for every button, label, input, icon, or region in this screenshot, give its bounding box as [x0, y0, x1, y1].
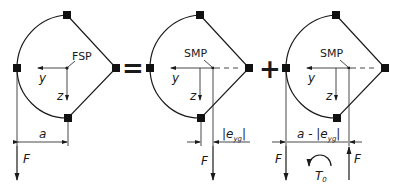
shear-center-diagram: y z FSP a F = y z SMP: [0, 0, 403, 185]
smp-leader: [204, 60, 212, 67]
node-top: [63, 11, 71, 19]
node-bottom: [333, 114, 341, 122]
node-right: [381, 64, 389, 72]
dimension-label: a - |eyg|: [297, 127, 340, 143]
dimension-a-label: a: [39, 127, 46, 141]
z-axis-label: z: [189, 89, 197, 103]
equals-operator: =: [122, 53, 144, 83]
node-right: [112, 64, 120, 72]
smp-label: SMP: [320, 47, 343, 60]
force-label: F: [23, 152, 31, 166]
node-top: [332, 11, 340, 19]
node-bottom: [197, 114, 205, 122]
fsp-label: FSP: [72, 50, 92, 63]
torque-arc-arrow: [309, 155, 331, 166]
force-label: F: [201, 154, 209, 168]
torque-label: T0: [315, 169, 327, 184]
node-right: [245, 64, 253, 72]
smp-label: SMP: [184, 47, 207, 60]
node-top: [196, 11, 204, 19]
plus-operator: +: [259, 54, 281, 84]
node-left: [146, 64, 154, 72]
smp-leader: [340, 60, 348, 67]
node-left: [13, 64, 21, 72]
z-axis-label: z: [56, 89, 64, 103]
panel-shifted-force: y z SMP |eyg| F: [146, 11, 253, 180]
panel-force-couple: y z SMP a - |eyg| F F T0: [272, 11, 389, 184]
force-up-label: F: [354, 152, 362, 166]
dimension-e-label: |eyg|: [222, 127, 246, 143]
force-down-label: F: [275, 152, 283, 166]
z-axis-label: z: [325, 89, 333, 103]
y-axis-label: y: [38, 71, 47, 85]
y-axis-label: y: [171, 71, 180, 85]
node-left: [282, 64, 290, 72]
node-bottom: [64, 114, 72, 122]
panel-original: y z FSP a F: [13, 11, 120, 180]
y-axis-label: y: [307, 71, 316, 85]
cross-section-outline: [286, 15, 385, 118]
cross-section-outline: [150, 15, 249, 118]
